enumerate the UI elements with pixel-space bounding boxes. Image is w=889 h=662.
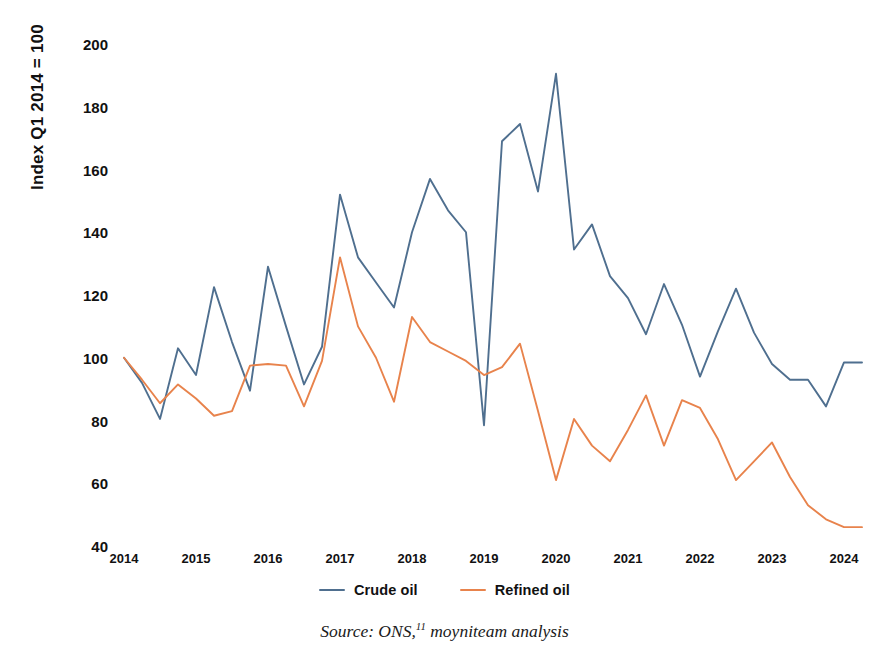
legend-swatch-icon bbox=[319, 589, 345, 591]
source-prefix: Source: ONS, bbox=[320, 621, 416, 641]
chart-legend: Crude oilRefined oil bbox=[0, 582, 889, 598]
plot-area bbox=[0, 0, 889, 662]
source-suffix: moyniteam analysis bbox=[426, 621, 569, 641]
legend-entry-crude-oil[interactable]: Crude oil bbox=[319, 582, 418, 598]
legend-label: Crude oil bbox=[354, 582, 418, 598]
legend-label: Refined oil bbox=[495, 582, 570, 598]
source-caption: Source: ONS,11 moyniteam analysis bbox=[0, 620, 889, 642]
series-line-crude-oil bbox=[124, 74, 862, 425]
legend-swatch-icon bbox=[460, 589, 486, 591]
source-footnote-marker: 11 bbox=[416, 620, 426, 632]
oil-price-index-chart: Index Q1 2014 = 100 20018016014012010080… bbox=[0, 0, 889, 662]
legend-entry-refined-oil[interactable]: Refined oil bbox=[460, 582, 570, 598]
